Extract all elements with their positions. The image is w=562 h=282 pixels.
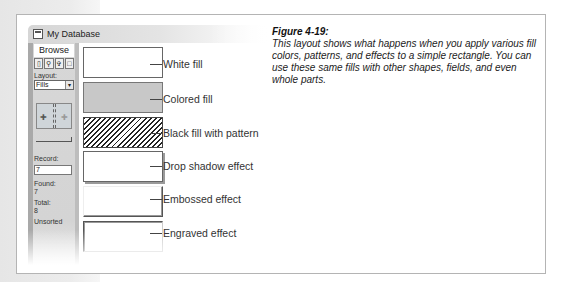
figure-caption: Figure 4-19: This layout shows what happ…: [272, 26, 542, 86]
find-tool-icon[interactable]: ⚲: [44, 58, 53, 69]
database-icon: [33, 29, 43, 39]
callout-label: Black fill with pattern: [163, 127, 259, 139]
callout-label: Colored fill: [163, 93, 213, 105]
figure-title: Figure 4-19:: [272, 26, 542, 38]
figure-description: This layout shows what happens when you …: [272, 38, 542, 86]
preview-tool-icon[interactable]: □: [65, 58, 74, 69]
leader-line: [150, 199, 162, 200]
callout-drop-shadow: Drop shadow effect: [150, 159, 253, 173]
record-label: Record:: [34, 155, 59, 162]
callout-label: Drop shadow effect: [163, 160, 253, 172]
record-number-field[interactable]: 7: [34, 165, 72, 175]
window-title: My Database: [47, 29, 100, 39]
leader-line: [150, 133, 162, 134]
book-navigator[interactable]: ✚ ✚: [36, 103, 72, 129]
total-value: 8: [34, 207, 38, 214]
next-record-icon[interactable]: ✚: [61, 114, 68, 122]
record-slider[interactable]: [36, 137, 72, 142]
layout-popup-value: Fills: [36, 81, 48, 88]
total-label: Total:: [34, 199, 51, 206]
leader-line: [150, 166, 162, 167]
layout-tool-icon[interactable]: ✞: [55, 58, 64, 69]
status-area: Browse ▯ ⚲ ✞ □ Layout: Fills ▾ ✚ ✚ Recor…: [28, 43, 79, 265]
callout-label: Embossed effect: [163, 193, 241, 205]
previous-record-icon[interactable]: ✚: [40, 114, 47, 122]
browse-tool-icon[interactable]: ▯: [34, 58, 43, 69]
callout-label: White fill: [163, 58, 203, 70]
callout-colored-fill: Colored fill: [150, 92, 213, 106]
callout-label: Engraved effect: [163, 227, 236, 239]
layout-popup[interactable]: Fills ▾: [34, 80, 74, 90]
found-value: 7: [34, 188, 38, 195]
leader-line: [150, 99, 162, 100]
callout-embossed: Embossed effect: [150, 192, 241, 206]
sort-status: Unsorted: [34, 218, 62, 225]
leader-line: [150, 233, 162, 234]
leader-line: [150, 64, 162, 65]
mode-tools: ▯ ⚲ ✞ □: [34, 58, 74, 69]
callout-white-fill: White fill: [150, 57, 203, 71]
layout-label: Layout:: [34, 72, 57, 79]
mode-label: Browse: [34, 44, 74, 57]
callout-pattern-fill: Black fill with pattern: [150, 126, 259, 140]
popup-arrow-icon: ▾: [65, 81, 73, 89]
found-label: Found:: [34, 180, 56, 187]
callout-engraved: Engraved effect: [150, 226, 236, 240]
window-title-bar[interactable]: My Database: [28, 25, 268, 43]
book-spine-icon: [53, 104, 56, 128]
